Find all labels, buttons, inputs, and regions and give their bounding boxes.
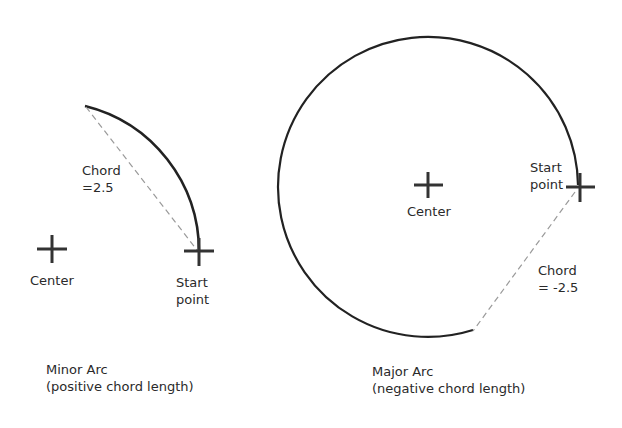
major-start-label: Start point bbox=[530, 159, 563, 193]
minor-chord-label: Chord =2.5 bbox=[82, 162, 121, 196]
major-start-cross-icon bbox=[566, 173, 595, 202]
major-caption-title: Major Arc bbox=[372, 363, 525, 380]
minor-caption-title: Minor Arc bbox=[46, 361, 194, 378]
major-start-label-line1: Start bbox=[530, 159, 563, 176]
major-chord-value: = -2.5 bbox=[538, 279, 578, 296]
major-chord-label: Chord = -2.5 bbox=[538, 262, 578, 296]
minor-center-cross-icon bbox=[37, 235, 67, 263]
major-center-cross-icon bbox=[414, 172, 443, 198]
major-start-label-line2: point bbox=[530, 176, 563, 193]
major-caption-subtitle: (negative chord length) bbox=[372, 380, 525, 397]
minor-chord-label-line1: Chord bbox=[82, 162, 121, 179]
arc-diagram: Chord =2.5 Center Start point Minor Arc … bbox=[0, 0, 622, 428]
minor-start-cross-icon bbox=[184, 238, 214, 266]
minor-start-label-line2: point bbox=[176, 291, 209, 308]
minor-caption: Minor Arc (positive chord length) bbox=[46, 361, 194, 395]
major-center-label: Center bbox=[407, 203, 451, 220]
minor-caption-subtitle: (positive chord length) bbox=[46, 378, 194, 395]
major-caption: Major Arc (negative chord length) bbox=[372, 363, 525, 397]
minor-chord-value: =2.5 bbox=[82, 179, 121, 196]
minor-center-label: Center bbox=[30, 272, 74, 289]
minor-start-label: Start point bbox=[176, 274, 209, 308]
major-chord-label-line1: Chord bbox=[538, 262, 578, 279]
minor-start-label-line1: Start bbox=[176, 274, 209, 291]
